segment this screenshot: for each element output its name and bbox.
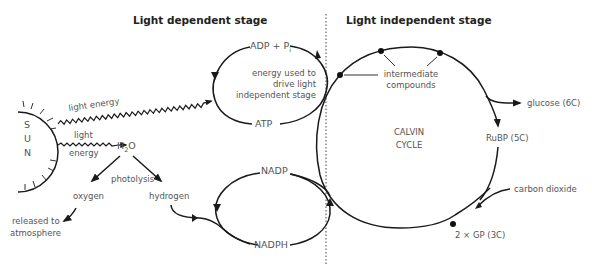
sun-letter-u: U xyxy=(24,133,31,144)
calvin-label-2: CYCLE xyxy=(396,140,423,150)
water-label: H2O xyxy=(117,140,136,154)
oxygen-release-arrow xyxy=(64,208,76,221)
calvin-cycle-rubp-descend xyxy=(480,147,498,200)
released-label-2: atmosphere xyxy=(10,228,61,238)
nadp-cycle-left-arc xyxy=(216,173,260,245)
adp-label: ADP + Pi xyxy=(250,40,291,54)
nadph-label: NADPH xyxy=(254,239,288,250)
sun-letter-s: S xyxy=(24,119,30,130)
intermediate-dot-2 xyxy=(378,48,384,54)
intermediate-label-1: intermediate xyxy=(384,69,439,79)
glucose-arrow xyxy=(486,96,520,103)
photolysis-label: photolysis xyxy=(111,174,155,184)
sun-icon: S U N xyxy=(18,101,58,192)
intermediate-label-2: compounds xyxy=(386,80,436,90)
intermediate-leader-2 xyxy=(384,55,395,66)
gp-label: 2 × GP (3C) xyxy=(455,230,505,240)
rubp-label: RuBP (5C) xyxy=(486,133,529,143)
nadp-cycle-arrowhead-left xyxy=(213,204,221,212)
intermediate-leader-3 xyxy=(427,57,437,66)
hydrogen-label: hydrogen xyxy=(149,191,189,201)
intermediate-dot-3 xyxy=(437,50,443,56)
calvin-label-1: CALVIN xyxy=(394,127,424,137)
light-energy-arrow-bottom xyxy=(58,143,126,146)
oxygen-label: oxygen xyxy=(73,191,104,201)
energy-label: energy xyxy=(69,148,99,158)
atp-label: ATP xyxy=(255,118,273,129)
light-label: light xyxy=(74,130,94,140)
nadp-label: NADP xyxy=(261,165,288,176)
photosynthesis-diagram: Light dependent stage Light independent … xyxy=(0,0,592,270)
light-independent-title: Light independent stage xyxy=(346,14,492,26)
hydrogen-arrowhead xyxy=(192,214,198,222)
energy-note-2: drive light xyxy=(273,79,317,89)
energy-note-3: independent stage xyxy=(236,90,316,100)
co2-label: carbon dioxide xyxy=(514,184,577,194)
calvin-cycle-left-bottom-arc xyxy=(317,76,455,228)
intermediate-dot-1 xyxy=(337,72,343,78)
adp-atp-cycle-arrowhead-right xyxy=(315,50,321,59)
adp-atp-cycle-left-arc xyxy=(213,47,252,124)
gp-dot xyxy=(450,221,456,227)
light-dependent-title: Light dependent stage xyxy=(133,14,268,26)
calvin-to-rubp-arrow xyxy=(484,90,498,126)
sun-letter-n: N xyxy=(24,147,31,158)
glucose-label: glucose (6C) xyxy=(527,98,580,108)
released-label-1: released to xyxy=(12,216,60,226)
hydrogen-to-nadph-arrow xyxy=(171,205,250,244)
adp-atp-cycle-arrowhead-left xyxy=(211,72,219,80)
energy-note-1: energy used to xyxy=(252,68,316,78)
light-energy-label-top: light energy xyxy=(68,96,120,113)
